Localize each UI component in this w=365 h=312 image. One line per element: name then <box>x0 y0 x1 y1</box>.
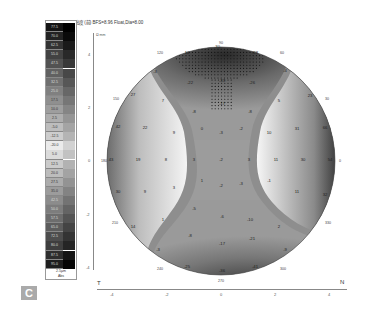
elevation-value: -3 <box>239 181 243 186</box>
elevation-value: 11 <box>295 189 300 194</box>
rim-angle-label: 210 <box>112 221 118 225</box>
elevation-value: 66 <box>323 125 328 130</box>
elevation-value: -22 <box>187 80 194 85</box>
elevation-value: 10 <box>185 50 190 55</box>
rim-angle-label: 120 <box>157 51 163 55</box>
elevation-value: -17 <box>219 101 226 106</box>
elevation-value: 19 <box>136 157 141 162</box>
elevation-value: -8 <box>248 109 252 114</box>
elevation-value: 42 <box>116 124 121 129</box>
elevation-value: -3 <box>156 247 160 252</box>
elevation-value: 54 <box>328 157 333 162</box>
elevation-value: -3 <box>153 69 157 74</box>
elevation-value: -9 <box>283 247 287 252</box>
elevation-value: -5 <box>192 206 196 211</box>
elevation-value: 30 <box>116 189 121 194</box>
elevation-value: -2 <box>219 183 223 188</box>
elevation-value: -41 <box>252 264 259 269</box>
rim-angle-label: 270 <box>218 279 224 283</box>
elevation-value: -2 <box>239 126 243 131</box>
elevation-value: -8 <box>188 233 192 238</box>
elevation-value: 30 <box>301 157 306 162</box>
rim-angle-label: 300 <box>280 267 286 271</box>
elevation-value: -6 <box>220 214 224 219</box>
elevation-value: 11 <box>274 157 279 162</box>
rim-angle-label: 30 <box>325 97 329 101</box>
elevation-value: 14 <box>131 224 136 229</box>
elevation-value: -28 <box>252 50 259 55</box>
elevation-value: 27 <box>131 92 136 97</box>
elevation-value: 32 <box>323 192 328 197</box>
elevation-value: -17 <box>219 241 226 246</box>
rim-angle-label: 180 <box>101 159 107 163</box>
elevation-value: -10 <box>247 217 254 222</box>
elevation-value: 31 <box>295 126 300 131</box>
elevation-value: -3 <box>219 130 223 135</box>
elevation-value: -8 <box>192 109 196 114</box>
elevation-value: -26 <box>249 80 256 85</box>
elevation-value: -36 <box>219 268 226 273</box>
elevation-value: 10 <box>267 130 272 135</box>
elevation-value: -1 <box>267 178 271 183</box>
rim-angle-label: 90 <box>219 41 223 45</box>
rim-angle-label: 330 <box>325 221 331 225</box>
elevation-value: -2 <box>219 157 223 162</box>
rim-angle-label: 240 <box>157 267 163 271</box>
rim-angle-label: 150 <box>113 97 119 101</box>
elevation-value: -33 <box>219 78 226 83</box>
elevation-value: -21 <box>249 236 256 241</box>
elevation-value: 43 <box>109 157 114 162</box>
rim-angle-label: 0 <box>339 159 341 163</box>
elevation-value: 22 <box>143 125 148 130</box>
elevation-value: -4 <box>283 68 287 73</box>
rim-angle-label: 60 <box>280 51 284 55</box>
elevation-map: 10-30-28-3-22-33-26-4277-17-8-8523422290… <box>0 0 365 312</box>
elevation-value: -25 <box>184 264 191 269</box>
elevation-value: 23 <box>308 93 313 98</box>
